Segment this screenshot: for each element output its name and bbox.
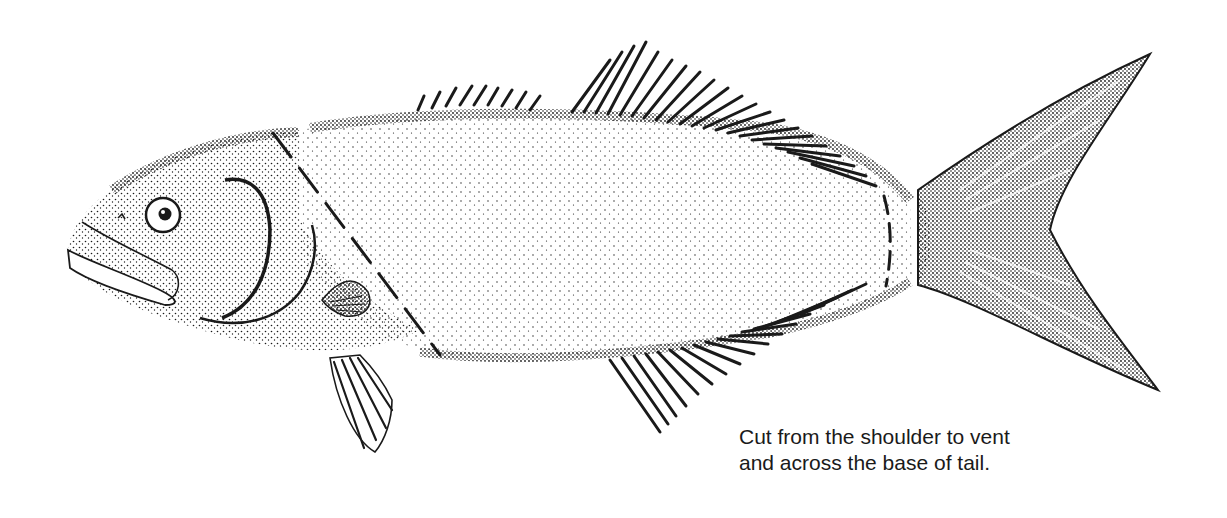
figure-caption: Cut from the shoulder to vent and across… [739,424,1010,476]
caption-line-2: and across the base of tail. [739,450,1010,476]
tail-fin [918,54,1158,390]
caption-line-1: Cut from the shoulder to vent [739,424,1010,450]
eye [146,198,180,232]
spiny-dorsal-fin [418,86,540,110]
pelvic-fin [330,355,392,452]
fish-illustration [0,0,1227,518]
